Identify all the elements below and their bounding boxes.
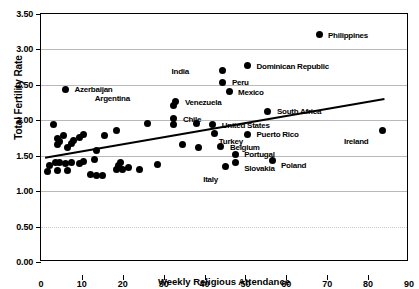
y-axis-tick-label: 3.50 xyxy=(0,9,33,19)
x-axis-tick-label: 80 xyxy=(353,279,383,289)
x-axis-tick-mark xyxy=(164,275,165,280)
data-point xyxy=(99,172,106,179)
x-axis-tick-label: 70 xyxy=(312,279,342,289)
data-point xyxy=(60,132,67,139)
x-axis-tick-label: 50 xyxy=(230,279,260,289)
y-axis-tick-label: 0.50 xyxy=(0,222,33,232)
y-axis-tick-mark xyxy=(36,262,41,263)
x-axis-tick-mark xyxy=(245,275,246,280)
data-point-labeled xyxy=(219,79,226,86)
data-point xyxy=(93,147,100,154)
data-point xyxy=(44,168,51,175)
x-axis-tick-label: 90 xyxy=(394,279,419,289)
data-point-label: Puerto Rico xyxy=(256,131,298,139)
data-point xyxy=(113,127,120,134)
x-axis-tick-mark xyxy=(123,275,124,280)
x-axis-tick-mark xyxy=(368,275,369,280)
data-point-labeled xyxy=(316,31,323,38)
data-point xyxy=(54,141,61,148)
x-axis-tick-label: 20 xyxy=(108,279,138,289)
data-point-label: Azerbaijan xyxy=(75,86,113,94)
data-point-label: India xyxy=(172,68,189,76)
data-point-label: Philippines xyxy=(328,32,368,40)
x-axis-tick-label: 30 xyxy=(149,279,179,289)
data-point-label: Poland xyxy=(281,162,306,170)
data-point-label: Portugal xyxy=(244,151,274,159)
y-axis-tick-label: 2.00 xyxy=(0,115,33,125)
x-axis-tick-mark xyxy=(82,275,83,280)
data-point-label: Venezuela xyxy=(185,99,221,107)
data-point xyxy=(54,167,61,174)
data-point xyxy=(101,132,108,139)
data-point-labeled xyxy=(62,86,69,93)
data-point-label: United States xyxy=(222,122,270,130)
data-point-label: Mexico xyxy=(238,89,264,97)
x-axis-tick-label: 40 xyxy=(190,279,220,289)
plot-area: 0.000.501.001.502.002.503.003.50 0102030… xyxy=(40,13,408,261)
data-point xyxy=(50,121,57,128)
data-point xyxy=(68,159,75,166)
data-point xyxy=(179,141,186,148)
data-point-label: Dominican Republic xyxy=(256,63,328,71)
x-axis-tick-mark xyxy=(327,275,328,280)
data-point-label: Italy xyxy=(203,176,218,184)
y-axis-tick-label: 0.00 xyxy=(0,257,33,267)
y-axis-tick-label: 1.50 xyxy=(0,151,33,161)
y-axis-tick-label: 2.50 xyxy=(0,80,33,90)
data-point-label: Argentina xyxy=(95,95,130,103)
data-point-label: Slovakia xyxy=(244,165,274,173)
y-axis-tick-label: 3.00 xyxy=(0,44,33,54)
data-point-label: South Africa xyxy=(277,108,321,116)
y-axis-tick-label: 1.00 xyxy=(0,186,33,196)
x-axis-tick-label: 10 xyxy=(67,279,97,289)
data-point-label: Chile xyxy=(183,116,201,124)
data-point xyxy=(136,166,143,173)
data-point-labeled xyxy=(244,131,251,138)
data-point-labeled xyxy=(379,127,386,134)
x-axis-tick-label: 60 xyxy=(271,279,301,289)
data-point-labeled xyxy=(222,163,229,170)
x-axis-tick-mark xyxy=(286,275,287,280)
data-point-label: Ireland xyxy=(344,138,368,146)
data-point-label: Peru xyxy=(232,79,249,87)
data-point-labeled xyxy=(232,151,239,158)
data-point xyxy=(64,144,71,151)
data-point-labeled xyxy=(264,108,271,115)
data-point-labeled xyxy=(232,159,239,166)
x-axis-tick-label: 0 xyxy=(26,279,56,289)
x-axis-tick-mark xyxy=(205,275,206,280)
